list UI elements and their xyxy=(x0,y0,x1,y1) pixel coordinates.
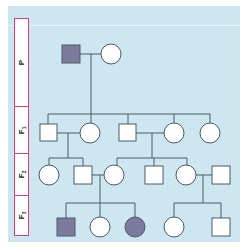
individual-female xyxy=(164,123,184,143)
pedigree-diagram xyxy=(0,0,244,249)
individual-female xyxy=(39,165,59,185)
individual-female xyxy=(176,165,196,185)
individual-male xyxy=(74,166,92,184)
individual-male xyxy=(119,124,136,141)
individual-female xyxy=(104,165,124,185)
individual-female xyxy=(200,123,220,143)
individual-male xyxy=(145,166,163,184)
individual-female-affected xyxy=(125,217,145,237)
individual-female xyxy=(101,44,121,64)
individual-male xyxy=(212,218,230,236)
individual-male xyxy=(40,124,57,141)
individual-male-affected xyxy=(57,218,75,236)
individual-male-affected xyxy=(62,45,80,63)
individual-female xyxy=(164,217,184,237)
individual-female xyxy=(80,123,100,143)
individual-male xyxy=(212,166,230,184)
individual-female xyxy=(90,217,110,237)
